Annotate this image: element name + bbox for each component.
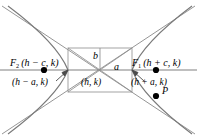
- focus-left-coords: (h − c, k): [21, 57, 58, 68]
- vertex-left-label: (h − a, k): [12, 78, 48, 88]
- center-label: (h, k): [81, 78, 101, 88]
- semi-transverse-axis-label: a: [114, 62, 119, 72]
- focus-left-label: F2 (h − c, k): [10, 58, 59, 69]
- focus-right-label: F1 (h + c, k): [132, 58, 181, 69]
- focus-right-coords: (h + c, k): [143, 57, 180, 68]
- hyperbola-graphic: [0, 0, 197, 140]
- semi-conjugate-axis-label: b: [93, 51, 98, 61]
- hyperbola-figure: F2 (h − c, k) F1 (h + c, k) (h − a, k) (…: [0, 0, 197, 140]
- point-p-dot: [153, 93, 159, 99]
- point-p-label: P: [162, 86, 168, 96]
